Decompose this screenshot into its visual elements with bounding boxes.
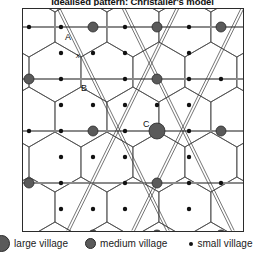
medium-village-dot [152,178,162,188]
small-village-dot [187,25,191,29]
large-village-markers [149,123,165,139]
hexagon-cell [211,87,243,147]
hexagon-cell [237,222,243,231]
hexagon-cell [23,9,55,57]
hexagon-cell [23,87,55,147]
small-village-dot [155,103,159,107]
small-village-dot [91,51,95,55]
small-village-dot [123,51,127,55]
small-village-dot [123,25,127,29]
large-circle-icon [0,235,10,252]
hexagon-cell [237,42,243,102]
hexagon-cell [107,9,159,57]
medium-village-dot [88,230,98,231]
small-village-dot [187,51,191,55]
hexagon-cell [133,42,185,102]
medium-village-dot [24,178,34,188]
hexagon-cell [211,9,243,57]
legend-label-small: small village [197,238,252,249]
small-village-dot [123,207,127,211]
small-village-dot [219,77,223,81]
hexagon-cell [107,177,159,231]
small-village-dot [123,181,127,185]
route-diagonal [52,9,167,231]
christaller-lattice-diagram: A x B C [23,9,243,231]
hexagon-cell [185,42,237,102]
route-diagonal [117,9,232,231]
label-x: x [75,51,80,60]
small-village-dot [59,207,63,211]
small-village-dot [123,103,127,107]
small-village-dot [123,77,127,81]
hexagon-cell [81,222,133,231]
small-village-dot [91,155,95,159]
hexagon-cell [29,42,81,102]
small-village-dot [187,207,191,211]
small-village-dot [27,129,31,133]
small-village-dot [187,103,191,107]
legend-item-small-village: small village [189,238,252,249]
hexagon-cell [211,177,243,231]
hexagon-cell [23,42,29,102]
small-village-dot [187,129,191,133]
medium-village-dot [88,22,98,32]
legend-label-large: large village [14,238,68,249]
small-village-dot [27,25,31,29]
page-title: Idealised pattern: Christaller's model [0,0,265,6]
hexagon-cell [55,9,107,57]
small-village-dot [59,155,63,159]
hexagon-cell [23,222,29,231]
route-diagonal [69,9,184,231]
medium-village-dot [152,22,162,32]
map-annotations: A x B C [65,32,150,129]
label-b: B [81,83,87,93]
hexagon-cell [159,87,211,147]
medium-village-dot [152,74,162,84]
small-village-dot [59,25,63,29]
legend-item-medium-village: medium village [85,238,167,249]
hexagon-cell [55,87,107,147]
small-village-dot [187,155,191,159]
small-village-dot [187,181,191,185]
small-village-dot [59,51,63,55]
medium-village-dot [24,74,34,84]
small-village-dot [91,103,95,107]
hexagon-cell [23,9,29,12]
label-c: C [143,119,150,129]
small-village-dot [59,77,63,81]
small-village-dot [123,129,127,133]
medium-village-dot [216,126,226,136]
map-frame: A x B C [22,8,244,232]
hexagon-cell [55,177,107,231]
small-village-dot [59,103,63,107]
small-village-dot [59,181,63,185]
medium-village-dot [152,230,162,231]
medium-circle-icon [85,238,96,249]
small-village-dot [59,129,63,133]
legend-label-medium: medium village [100,238,167,249]
medium-village-dot [216,22,226,32]
small-village-dot [91,207,95,211]
small-village-dot [219,181,223,185]
medium-village-dot [88,126,98,136]
small-dot-icon [189,242,193,246]
legend: large village medium village small villa… [0,234,265,253]
hexagon-cell [133,222,185,231]
label-a: A [65,32,71,42]
small-village-dot [187,77,191,81]
route-diagonal [134,9,243,231]
hexagon-network [23,9,243,231]
large-village-dot [149,123,165,139]
small-village-dot [123,155,127,159]
hexagon-cell [159,177,211,231]
legend-item-large-village: large village [0,235,68,252]
